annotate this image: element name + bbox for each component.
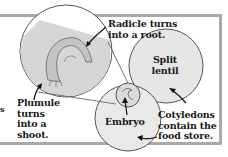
cropped-edge-text: s [0, 104, 4, 115]
radicle-label: Radicle turns into a root. [108, 19, 177, 40]
cotyledons-label: Cotyledons contain the food store. [158, 110, 217, 142]
split-lentil-label: Split lentil [145, 55, 185, 76]
embryo-label: Embryo [105, 117, 145, 128]
plumule-label: Plumule turns into a shoot. [17, 98, 60, 140]
